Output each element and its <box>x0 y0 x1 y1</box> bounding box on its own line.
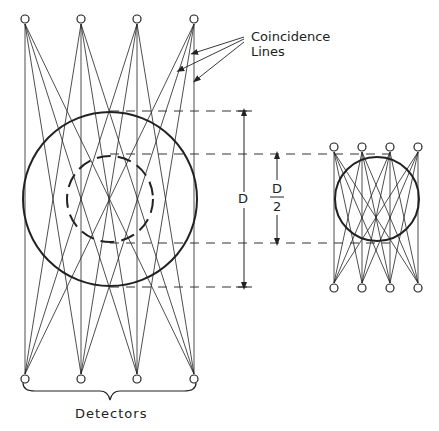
diagram-canvas: Coincidence Lines D D 2 Detectors <box>0 0 439 431</box>
coincidence-label-line2: Lines <box>251 44 285 59</box>
detector-top <box>330 143 338 151</box>
detector-bottom <box>21 375 29 383</box>
detector-bottom <box>414 284 422 292</box>
object-circle-half-dashed <box>67 156 153 242</box>
detector-top <box>358 143 366 151</box>
detectors-brace <box>23 383 196 400</box>
detector-bottom <box>190 375 198 383</box>
detector-bottom <box>330 284 338 292</box>
half-diameter-numerator: D <box>272 181 282 196</box>
right-coincidence-lines <box>334 152 418 283</box>
coincidence-label-line1: Coincidence <box>251 29 330 44</box>
detector-bottom <box>386 284 394 292</box>
detector-bottom <box>133 375 141 383</box>
coincidence-callout-arrows <box>180 37 244 80</box>
diameter-D-label: D <box>238 191 248 206</box>
detector-top <box>414 143 422 151</box>
object-circle-small <box>335 157 419 241</box>
detector-bottom <box>77 375 85 383</box>
detectors-label: Detectors <box>75 406 147 421</box>
detector-bottom <box>358 284 366 292</box>
left-coincidence-lines <box>25 24 194 374</box>
detector-top <box>386 143 394 151</box>
pet-detector-diagram: Coincidence Lines D D 2 Detectors <box>0 0 439 431</box>
detector-top <box>190 15 198 23</box>
detector-top <box>133 15 141 23</box>
object-circle-large <box>23 112 197 286</box>
half-diameter-denominator: 2 <box>273 199 281 214</box>
detector-top <box>77 15 85 23</box>
detector-top <box>21 15 29 23</box>
